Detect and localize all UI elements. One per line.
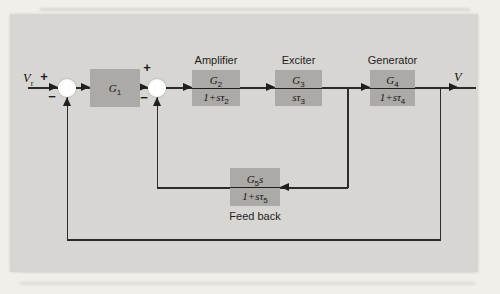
outer-feedback-tap (440, 88, 442, 240)
exciter-block: G3 sτ3 (275, 70, 322, 106)
exciter-denominator: sτ3 (275, 89, 322, 105)
signal-line-output (415, 87, 476, 89)
arrowhead-into-junction2-bottom (153, 97, 161, 106)
feedback-label: Feed back (227, 210, 283, 222)
minus-sign-junction1: − (46, 90, 58, 103)
arrowhead-into-junction1-bottom (63, 97, 71, 106)
amplifier-label: Amplifier (192, 54, 240, 66)
textbook-page: + − + − Vr V G1 Amplifier G2 1+sτ2 Excit… (0, 0, 500, 294)
generator-numerator: G4 (370, 72, 415, 89)
feedback-line-to-block (280, 187, 348, 189)
input-signal-label: Vr (23, 71, 33, 86)
generator-den-text: 1+sτ (380, 91, 401, 103)
exciter-den-subscript: 3 (300, 97, 304, 106)
feedback-numerator: G5s (230, 171, 280, 188)
input-signal-base: V (23, 71, 31, 85)
arrowhead-into-generator (361, 83, 370, 91)
amplifier-gain-subscript: 2 (218, 80, 222, 89)
feedback-denominator: 1+sτ5 (230, 188, 280, 204)
amplifier-numerator: G2 (192, 72, 240, 89)
gain-block-g1: G1 (90, 69, 140, 107)
figure-panel: + − + − Vr V G1 Amplifier G2 1+sτ2 Excit… (10, 14, 478, 272)
g1-symbol: G (109, 82, 117, 94)
generator-label: Generator (366, 54, 419, 66)
feedback-line-from-block (157, 187, 230, 189)
amplifier-denominator: 1+sτ2 (192, 89, 240, 105)
generator-denominator: 1+sτ4 (370, 89, 415, 105)
feedback-line-exciter-tap (347, 88, 349, 188)
arrowhead-into-g1 (81, 83, 90, 91)
plus-sign-junction2: + (141, 61, 153, 74)
amplifier-block: G2 1+sτ2 (192, 70, 240, 106)
exciter-gain-subscript: 3 (300, 80, 304, 89)
outer-feedback-riser-j1 (67, 97, 69, 240)
exciter-numerator: G3 (275, 72, 322, 89)
arrowhead-into-feedback-block (280, 183, 289, 191)
amplifier-den-subscript: 2 (224, 97, 228, 106)
input-signal-subscript: r (31, 79, 34, 88)
generator-gain-subscript: 4 (394, 80, 398, 89)
feedback-den-text: 1+sτ (242, 190, 263, 202)
summing-junction-2 (148, 79, 166, 97)
plus-sign-junction1: + (38, 70, 50, 83)
feedback-den-subscript: 5 (263, 196, 267, 205)
exciter-label: Exciter (275, 54, 322, 66)
generator-den-subscript: 4 (401, 97, 405, 106)
feedback-s-term: s (259, 173, 263, 185)
arrowhead-into-exciter (266, 83, 275, 91)
g1-transfer-function: G1 (90, 80, 140, 96)
amplifier-gain-symbol: G (210, 74, 218, 86)
feedback-line-riser-j2 (157, 97, 159, 188)
outer-feedback-bottom-line (67, 239, 441, 241)
output-signal-label: V (454, 70, 462, 85)
feedback-block: G5s 1+sτ5 (230, 168, 280, 206)
bleed-through-text (40, 0, 470, 12)
g1-subscript: 1 (117, 88, 121, 97)
arrowhead-into-amplifier (183, 83, 192, 91)
generator-block: G4 1+sτ4 (370, 70, 415, 106)
amplifier-den-text: 1+sτ (203, 91, 224, 103)
summing-junction-1 (58, 79, 76, 97)
feedback-gain-symbol: G (247, 173, 255, 185)
